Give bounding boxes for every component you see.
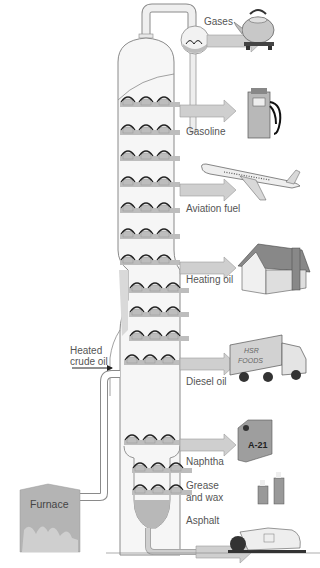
furnace: Furnace	[20, 484, 80, 552]
label-grease: Grease	[186, 480, 219, 491]
label-gasoline: Gasoline	[186, 126, 226, 137]
label-naphtha: Naphtha	[186, 456, 224, 467]
label-crude-oil: crude oil	[70, 356, 108, 367]
can-label: A-21	[248, 440, 268, 450]
label-aviation-fuel: Aviation fuel	[186, 203, 240, 214]
truck-text-foods: FOODS	[238, 357, 263, 364]
distillation-column	[110, 38, 180, 555]
truck-icon: HSR FOODS	[230, 335, 306, 382]
feed-pipe	[72, 368, 120, 497]
candles-icon	[258, 472, 284, 504]
distillation-diagram: Furnace Gases Gasoline Aviation fuel Hea…	[0, 0, 320, 568]
truck-text-hsr: HSR	[244, 347, 259, 354]
label-diesel-oil: Diesel oil	[186, 376, 227, 387]
label-asphalt: Asphalt	[186, 515, 220, 526]
label-heated: Heated	[70, 345, 102, 356]
fuel-pump-icon	[248, 88, 280, 138]
road-roller-icon	[228, 528, 306, 553]
label-heating-oil: Heating oil	[186, 274, 233, 285]
label-wax: and wax	[186, 492, 223, 503]
house-icon	[238, 244, 310, 294]
label-gases: Gases	[204, 16, 233, 27]
furnace-label: Furnace	[30, 498, 69, 510]
jerrycan-icon: A-21	[238, 420, 272, 462]
